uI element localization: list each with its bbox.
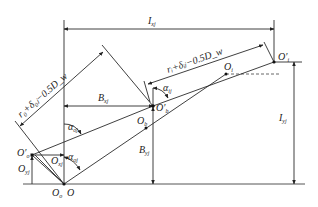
label-Ob-prime: O′b — [156, 102, 168, 114]
bearing-geometry-diagram: Ixj Iyj Bxj Byj Oxj Oyj αoj αoj αij O Oo… — [0, 0, 318, 207]
label-Oxj: Oxj — [51, 155, 63, 167]
inner-radius-tick-right — [264, 42, 274, 62]
label-Oo-prime: O′o — [17, 147, 29, 159]
label-Ob: Ob — [137, 115, 147, 127]
label-Oyj: Oyj — [18, 163, 30, 175]
point-Ob-prime — [151, 104, 155, 108]
label-Ixj: Ixj — [147, 15, 156, 27]
label-outer-radius-expr: r₀+δ₀ⱼ−0.5D_w — [15, 70, 70, 119]
dimension-outer-radius — [20, 52, 103, 126]
line-Oo-prime-to-O-2 — [35, 155, 64, 184]
label-Oi: Oi — [224, 61, 233, 73]
line-Oo-prime-to-Ob-prime — [32, 106, 153, 155]
label-Iyj: Iyj — [278, 112, 287, 124]
label-inner-radius-expr: rᵢ+δᵢⱼ−0.5D_w — [165, 45, 224, 75]
label-Bxj: Bxj — [98, 92, 109, 104]
point-Oi — [225, 73, 228, 76]
label-Byj: Byj — [139, 144, 150, 156]
label-O: O — [67, 187, 74, 198]
point-Oo-prime — [31, 154, 34, 157]
label-Oi-prime: O′i — [278, 51, 289, 63]
label-alpha-oj-lower: αoj — [68, 151, 78, 163]
label-Oo: Oo — [52, 187, 62, 199]
label-alpha-ij: αij — [163, 82, 172, 94]
point-O — [62, 182, 65, 185]
label-alpha-oj-upper: αoj — [68, 121, 78, 133]
outer-radius-tick-top — [102, 45, 153, 106]
point-Oi-prime — [272, 60, 275, 63]
